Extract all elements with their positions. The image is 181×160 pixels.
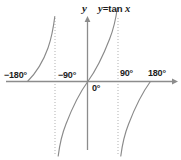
tangent-function-figure: −180° −90° 0° 90° 180° y y=tan x <box>0 0 181 160</box>
tan-curve-branch-left <box>28 17 55 82</box>
y-axis <box>85 16 91 150</box>
tangent-plot-svg <box>0 0 181 160</box>
equation-rhs-variable: x <box>125 3 130 14</box>
x-axis-label-neg90: −90° <box>58 70 76 80</box>
y-axis-label: y <box>82 3 87 14</box>
equation-label: y=tan x <box>98 3 130 14</box>
origin-label-zero: 0° <box>92 83 100 93</box>
equation-operator: =tan <box>103 3 125 14</box>
x-axis-label-90: 90° <box>120 68 133 78</box>
tan-curve-branch-right <box>121 82 151 157</box>
x-axis-label-neg180: −180° <box>4 70 27 80</box>
x-axis-label-180: 180° <box>148 68 166 78</box>
